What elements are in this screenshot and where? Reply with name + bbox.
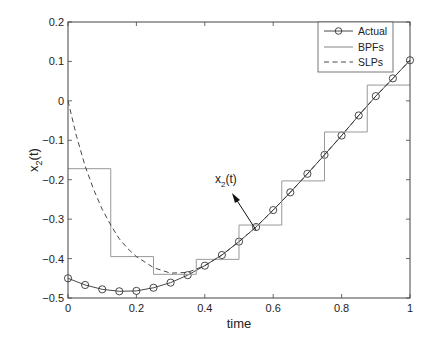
x-tick-label: 1 xyxy=(407,302,413,314)
y-tick-label: −0.1 xyxy=(42,134,64,146)
legend: Actual BPFs SLPs xyxy=(318,22,393,72)
x-tick-label: 0.6 xyxy=(266,302,281,314)
x-tick-label: 0 xyxy=(65,302,71,314)
arrow-head-icon xyxy=(232,193,240,203)
annotation-label: x2(t) xyxy=(215,172,237,189)
y-tick-label: −0.3 xyxy=(42,213,64,225)
series-bpfs xyxy=(68,85,410,274)
y-tick-label: 0 xyxy=(58,95,64,107)
svg-text:Actual: Actual xyxy=(358,25,387,37)
x-tick-label: 0.8 xyxy=(334,302,349,314)
plot-area xyxy=(64,57,413,295)
y-tick-label: −0.4 xyxy=(42,253,64,265)
annotation: x2(t) xyxy=(215,172,256,230)
svg-text:SLPs: SLPs xyxy=(358,56,383,68)
y-axis-title: x2(t) xyxy=(26,148,44,172)
chart: 00.20.40.60.810.20.10−0.1−0.2−0.3−0.4−0.… xyxy=(0,0,432,344)
y-tick-label: 0.2 xyxy=(49,16,64,28)
x-axis-title: time xyxy=(227,316,252,331)
y-tick-label: −0.2 xyxy=(42,174,64,186)
svg-text:BPFs: BPFs xyxy=(358,41,384,53)
x-tick-label: 0.2 xyxy=(129,302,144,314)
x-axis-label: time xyxy=(227,316,252,331)
y-tick-label: 0.1 xyxy=(49,55,64,67)
y-tick-label: −0.5 xyxy=(42,292,64,304)
y-axis-label: x2(t) xyxy=(26,148,44,172)
x-tick-label: 0.4 xyxy=(197,302,212,314)
